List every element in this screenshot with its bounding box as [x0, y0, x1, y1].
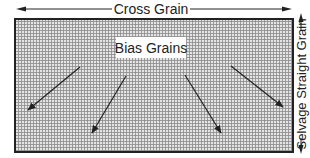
- selvage-grain-label: Selvage Straight Grain: [294, 19, 309, 150]
- cross-grain-label: Cross Grain: [114, 1, 189, 17]
- fabric-grain-diagram: Cross Grain Selvage Straight Grain Bias …: [0, 0, 310, 158]
- bias-grains-label: Bias Grains: [115, 40, 187, 56]
